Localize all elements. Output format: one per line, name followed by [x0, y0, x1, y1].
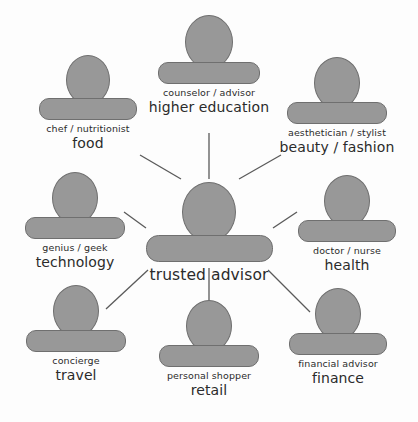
person-body-icon — [158, 62, 260, 84]
node-trusted-advisor[interactable]: trusted advisor — [109, 182, 309, 284]
person-head-icon — [185, 15, 233, 69]
node-category-label: higher education — [149, 100, 269, 116]
node-role-label: aesthetician / stylist — [280, 128, 395, 139]
person-body-icon — [289, 333, 387, 355]
node-labels: personal shopperretail — [167, 371, 251, 398]
node-category-label: technology — [36, 255, 115, 271]
node-labels: aesthetician / stylistbeauty / fashion — [280, 128, 395, 155]
node-role-label: counselor / advisor — [149, 88, 269, 99]
node-finance[interactable]: financial advisorfinance — [263, 288, 413, 386]
node-role-label: doctor / nurse — [313, 246, 381, 257]
person-body-icon — [39, 98, 137, 120]
node-role-label: genius / geek — [36, 243, 115, 254]
person-icon — [26, 285, 126, 352]
diagram-canvas: chef / nutritionistfoodcounselor / advis… — [0, 0, 418, 422]
person-icon — [146, 182, 273, 262]
person-body-icon — [25, 217, 125, 239]
person-head-icon — [182, 182, 236, 242]
node-category-label: travel — [52, 368, 99, 384]
person-icon — [287, 57, 387, 124]
node-role-label: chef / nutritionist — [46, 124, 129, 135]
node-labels: financial advisorfinance — [298, 359, 378, 386]
person-icon — [289, 288, 387, 355]
person-icon — [39, 55, 137, 120]
node-category-label: health — [313, 258, 381, 274]
node-beauty-fashion[interactable]: aesthetician / stylistbeauty / fashion — [262, 57, 412, 155]
node-category-label: retail — [167, 383, 251, 399]
person-icon — [298, 175, 396, 242]
person-body-icon — [159, 345, 259, 367]
node-role-label: concierge — [52, 356, 99, 367]
node-role-label: personal shopper — [167, 371, 251, 382]
node-labels: conciergetravel — [52, 356, 99, 383]
node-category-label: beauty / fashion — [280, 140, 395, 156]
node-retail[interactable]: personal shopperretail — [134, 300, 284, 398]
person-body-icon — [287, 102, 387, 124]
node-category-label: food — [46, 136, 129, 152]
person-icon — [158, 15, 260, 84]
person-body-icon — [26, 330, 126, 352]
node-category-label: trusted advisor — [150, 267, 269, 284]
node-role-label: financial advisor — [298, 359, 378, 370]
node-labels: chef / nutritionistfood — [46, 124, 129, 151]
node-category-label: finance — [298, 371, 378, 387]
person-body-icon — [146, 235, 273, 262]
node-labels: counselor / advisorhigher education — [149, 88, 269, 115]
person-body-icon — [298, 220, 396, 242]
person-icon — [159, 300, 259, 367]
node-travel[interactable]: conciergetravel — [1, 285, 151, 383]
node-labels: genius / geektechnology — [36, 243, 115, 270]
node-labels: trusted advisor — [150, 266, 269, 284]
node-labels: doctor / nursehealth — [313, 246, 381, 273]
